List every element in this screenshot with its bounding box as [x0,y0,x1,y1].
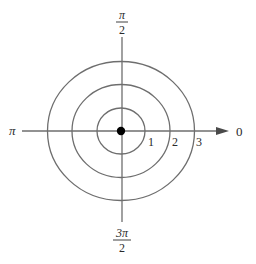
angle-label-pi-over-2-denominator: 2 [119,23,125,37]
arrowhead-icon [216,127,229,135]
angle-label-3pi-over-2-denominator: 2 [119,241,125,255]
polar-grid-diagram: 0 π π 2 3π 2 1 2 3 [0,0,256,264]
angle-label-pi-over-2-numerator: π [119,8,126,22]
angle-label-0: 0 [236,124,243,139]
radius-label-3: 3 [196,135,202,149]
angle-label-pi: π [9,123,16,138]
radius-label-2: 2 [172,135,178,149]
angle-label-3pi-over-2-numerator: 3π [115,226,129,240]
radius-label-1: 1 [148,135,154,149]
pole-dot [117,127,125,135]
